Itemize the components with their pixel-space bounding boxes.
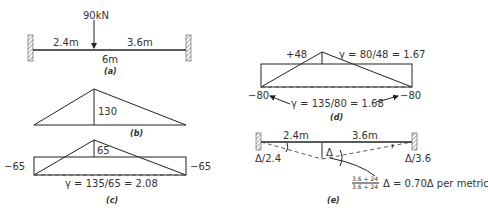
caption-e: (e) bbox=[327, 196, 340, 205]
gamma-label: γ = 135/65 = 2.08 bbox=[65, 178, 158, 189]
total-span-label: 6m bbox=[102, 54, 118, 65]
caption-d: (d) bbox=[330, 113, 343, 122]
load-label: 90kN bbox=[83, 10, 109, 21]
gamma-ends-label: γ = 135/80 = 1.68 bbox=[291, 98, 384, 109]
result-label: Δ = 0.70Δ per metric bbox=[383, 178, 488, 189]
left-pointer-arrow bbox=[270, 96, 290, 104]
peak-label: 65 bbox=[97, 145, 110, 156]
right-span-label: 3.6m bbox=[127, 37, 153, 48]
right-end-label: −80 bbox=[400, 90, 421, 101]
left-end-label: −65 bbox=[4, 161, 25, 172]
panel-a-beam: 90kN 2.4m 3.6m 6m (a) bbox=[28, 10, 191, 76]
fraction-numerator: 3.6 + 24 bbox=[352, 175, 378, 182]
leader-curve bbox=[330, 158, 375, 176]
right-fixed-support-icon bbox=[186, 35, 191, 61]
peak-label: +48 bbox=[286, 49, 307, 60]
right-deflected-chord bbox=[322, 142, 412, 159]
right-rotation-label: Δ/3.6 bbox=[405, 153, 431, 164]
gamma-peak-label: γ = 80/48 = 1.67 bbox=[339, 49, 425, 60]
left-span-label: 2.4m bbox=[53, 37, 79, 48]
structural-diagram: 90kN 2.4m 3.6m 6m (a) 130 (b) 65 −65 −65… bbox=[0, 0, 488, 212]
right-fixed-support-icon bbox=[412, 133, 417, 150]
right-end-label: −65 bbox=[190, 161, 211, 172]
left-fixed-support-icon bbox=[256, 133, 261, 150]
left-span-label: 2.4m bbox=[283, 130, 309, 141]
delta-label: Δ bbox=[326, 147, 333, 158]
end-moment-rect bbox=[261, 64, 412, 87]
caption-b: (b) bbox=[130, 129, 143, 138]
panel-d-moment: +48 γ = 80/48 = 1.67 −80 −80 γ = 135/80 … bbox=[248, 49, 425, 122]
panel-e-deflection: 2.4m 3.6m Δ Δ/2.4 Δ/3.6 3.6 + 24 3.6 + 2… bbox=[255, 130, 488, 205]
panel-c-moment: 65 −65 −65 γ = 135/65 = 2.08 (c) bbox=[4, 140, 211, 205]
left-end-label: −80 bbox=[248, 90, 269, 101]
caption-a: (a) bbox=[104, 67, 117, 76]
left-rotation-label: Δ/2.4 bbox=[255, 153, 281, 164]
left-rotation-arc bbox=[286, 143, 288, 152]
peak-label: 130 bbox=[98, 106, 117, 117]
caption-c: (c) bbox=[106, 196, 118, 205]
center-rotation-arc bbox=[340, 150, 342, 166]
fraction-denominator: 3.6 + 24 bbox=[352, 183, 378, 190]
right-span-label: 3.6m bbox=[352, 130, 378, 141]
left-fixed-support-icon bbox=[28, 35, 33, 61]
panel-b-moment: 130 (b) bbox=[34, 89, 186, 138]
